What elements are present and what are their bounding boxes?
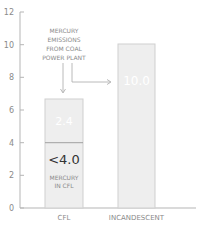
svg-text:MERCURY: MERCURY [50,27,79,34]
y-tick-10: 10 [4,41,14,50]
svg-text:EMISSIONS: EMISSIONS [47,36,80,43]
coal-annotation: MERCURY EMISSIONS FROM COAL POWER PLANT [42,27,86,61]
cfl-annotation-line2: IN CFL [54,182,74,189]
cfl-annotation-line1: MERCURY [50,174,79,181]
incandescent-value: 10.0 [123,74,150,88]
arrow-right-icon [72,63,110,82]
cfl-top-value: 2.4 [55,115,73,128]
cfl-base-value: <4.0 [48,152,80,167]
svg-text:POWER PLANT: POWER PLANT [42,54,86,61]
y-tick-12: 12 [4,8,14,17]
bar-incandescent: 10.0 [118,44,155,208]
y-tick-8: 8 [9,73,14,82]
y-ticks: 0 2 4 6 8 10 12 [4,8,24,213]
y-tick-2: 2 [9,171,14,180]
x-label-cfl: CFL [58,214,71,222]
bar-cfl: 2.4 <4.0 MERCURY IN CFL [45,99,83,208]
x-label-incandescent: INCANDESCENT [109,214,165,222]
svg-text:FROM COAL: FROM COAL [46,45,82,52]
y-tick-6: 6 [9,106,14,115]
annotation-arrows [61,63,112,93]
y-tick-4: 4 [9,139,14,148]
bar-chart: 0 2 4 6 8 10 12 2.4 <4.0 MERCURY IN CFL … [0,0,206,230]
y-tick-0: 0 [9,204,14,213]
